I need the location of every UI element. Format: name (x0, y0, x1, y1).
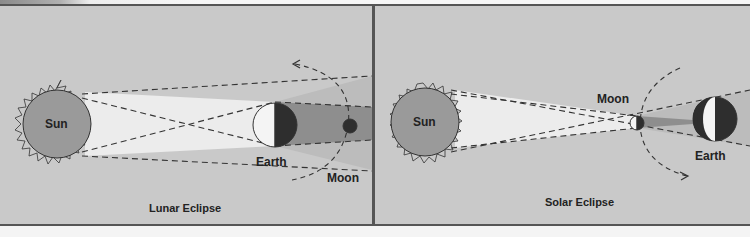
sun-label: Sun (45, 117, 68, 131)
orbit-arrow-icon (680, 172, 688, 180)
lunar-eclipse-caption: Lunar Eclipse (149, 202, 221, 214)
earth-label: Earth (695, 149, 726, 163)
solar-eclipse-caption: Solar Eclipse (545, 196, 614, 208)
earth-label: Earth (256, 155, 287, 169)
earth-icon (253, 103, 297, 147)
lunar-eclipse-diagram (0, 6, 372, 224)
sun-label: Sun (413, 115, 436, 129)
moon-icon (630, 116, 644, 130)
sunlight-region (85, 92, 275, 156)
earth-icon (693, 97, 737, 141)
moon-label: Moon (597, 92, 629, 106)
moon-icon (343, 119, 357, 133)
lunar-eclipse-panel: Sun Earth Moon Lunar Eclipse (0, 4, 374, 226)
solar-eclipse-panel: Sun Moon Earth Solar Eclipse (374, 4, 750, 226)
moon-label: Moon (327, 171, 359, 185)
